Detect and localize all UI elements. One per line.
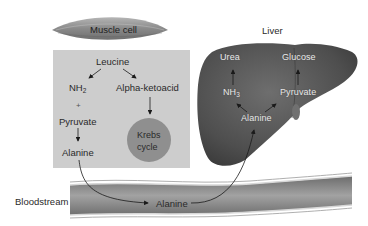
nh3-label: NH3: [223, 88, 240, 99]
plus-sign: +: [76, 102, 81, 110]
bloodstream-label: Bloodstream: [15, 197, 68, 207]
glucose-label: Glucose: [282, 53, 316, 62]
urea-label: Urea: [220, 53, 240, 62]
liver-pyruvate-label: Pyruvate: [280, 88, 316, 97]
liver-alanine-label: Alanine: [241, 114, 272, 123]
bloodstream-alanine-label: Alanine: [156, 199, 188, 209]
alanine-label: Alanine: [62, 148, 94, 158]
liver-title: Liver: [262, 26, 283, 36]
leucine-label: Leucine: [96, 57, 129, 67]
krebs-label-line1: Krebs: [137, 131, 161, 140]
nh2-label: NH2: [69, 83, 86, 95]
alpha-ketoacid-label: Alpha-ketoacid: [116, 83, 179, 93]
diagram-graphics: [0, 0, 368, 226]
krebs-cycle-circle: [127, 118, 171, 162]
blood-vessel: [70, 173, 352, 218]
muscle-cell-label: Muscle cell: [90, 25, 137, 35]
krebs-label-line2: cycle: [137, 143, 158, 152]
pyruvate-label: Pyruvate: [59, 117, 97, 127]
